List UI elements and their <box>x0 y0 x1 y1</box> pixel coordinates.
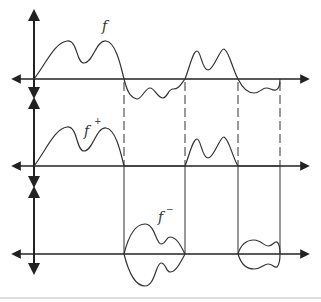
label-f: f <box>101 18 110 34</box>
curve-f <box>34 41 280 99</box>
label-f-minus: f <box>157 209 166 225</box>
panel-f-plus: f + <box>16 103 305 182</box>
label-f-plus-sup: + <box>94 116 102 126</box>
panel-f: f <box>16 15 305 99</box>
connectors <box>124 82 280 254</box>
panel-f-minus: f − <box>16 192 305 286</box>
curve-neg-f-minus <box>124 254 280 286</box>
label-f-plus: f <box>83 123 92 139</box>
curve-f-plus <box>34 127 280 166</box>
label-f-minus-sup: − <box>166 204 174 214</box>
curve-f-minus <box>124 224 280 254</box>
diagram-canvas: f f + f − <box>0 0 321 302</box>
